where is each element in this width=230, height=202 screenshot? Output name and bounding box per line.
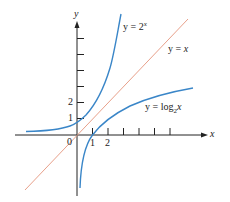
plot-canvas [0,0,230,202]
exponential-label-prefix: y = 2 [123,21,144,32]
graph-exp-log-inverse: y x 0 1 2 1 2 y = 2x y = x y = log2x [0,0,230,202]
logarithm-label-prefix: y = log [145,101,173,112]
y-axis-arrow-icon [75,21,80,28]
x-axis-label: x [210,129,214,139]
identity-label: y = x [168,44,188,54]
exponential-label-sup: x [144,20,147,28]
exponential-curve [26,14,121,132]
y-tick-label-2: 2 [68,97,73,107]
identity-label-prefix: y = [168,43,184,54]
x-tick-label-2: 2 [105,138,110,148]
exponential-label: y = 2x [123,22,147,32]
x-axis-arrow-icon [201,133,208,138]
logarithm-label: y = log2x [145,102,181,112]
y-ticks [77,39,84,119]
x-ticks [93,128,171,135]
x-tick-label-1: 1 [90,138,95,148]
logarithm-label-var: x [177,101,181,112]
y-tick-label-1: 1 [68,113,73,123]
identity-label-var: x [184,43,188,54]
y-axis-label: y [74,9,78,19]
origin-label: 0 [67,137,72,147]
